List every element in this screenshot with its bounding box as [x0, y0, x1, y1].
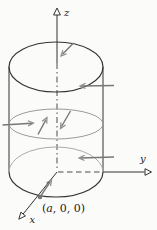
- y-axis-arrowhead: [145, 169, 152, 176]
- inward-vector-bottom: [40, 180, 52, 197]
- cylinder-bottom-front-edge: [9, 172, 103, 197]
- surface-point-dot: [38, 195, 43, 200]
- point-label: (a, 0, 0): [42, 202, 85, 215]
- x-axis-arrowhead: [19, 212, 26, 219]
- x-axis-label: x: [30, 214, 36, 225]
- z-axis-arrowhead: [54, 8, 61, 15]
- z-axis-label: z: [63, 7, 70, 18]
- inward-vector-mid-back: [61, 111, 71, 129]
- cylinder-top-ellipse: [9, 42, 103, 92]
- inward-vector-mid-left: [3, 121, 34, 126]
- cylinder-flux-figure: z y x (a, 0, 0): [0, 0, 157, 230]
- inward-vector-top-right: [80, 83, 114, 88]
- cylinder-flux-diagram: z y x (a, 0, 0): [0, 0, 157, 230]
- cylinder-bottom-back-edge: [9, 147, 103, 172]
- inward-vector-top: [61, 43, 74, 56]
- y-axis-label: y: [139, 153, 146, 164]
- inward-vector-mid-front: [38, 118, 47, 135]
